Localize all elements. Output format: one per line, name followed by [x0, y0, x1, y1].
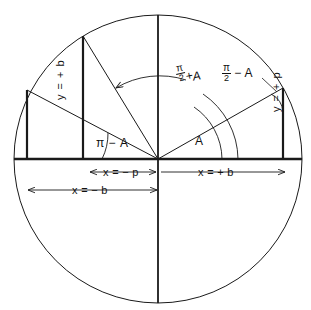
label-angle-pi-minus-a: π − A	[96, 136, 128, 150]
label-y-left: y = + b	[54, 59, 66, 100]
fraction-pi-over-two: π 2	[222, 63, 231, 83]
ray-shallow-left	[27, 90, 158, 159]
label-x-plus-b: x = + b	[198, 166, 234, 178]
label-x-minus-b: x = − b	[72, 184, 108, 196]
arc-angle-halfpi-minus-a	[203, 94, 238, 159]
operator-minus: −	[234, 66, 241, 80]
variable-a: A	[245, 66, 253, 80]
ray-right	[158, 88, 283, 159]
label-x-minus-p: x = − p	[103, 166, 139, 178]
label-angle-a: A	[195, 134, 203, 148]
diagram-canvas: π − A A π 2 +A π 2 − A y = + b y = + p x…	[0, 0, 311, 310]
label-angle-halfpi-plus-a: π 2 +A	[176, 64, 200, 84]
label-y-right: y = + p	[270, 71, 282, 112]
label-angle-halfpi-minus-a: π 2 − A	[222, 64, 253, 84]
geometry-figure	[0, 0, 311, 310]
arc-angle-a	[194, 107, 222, 159]
